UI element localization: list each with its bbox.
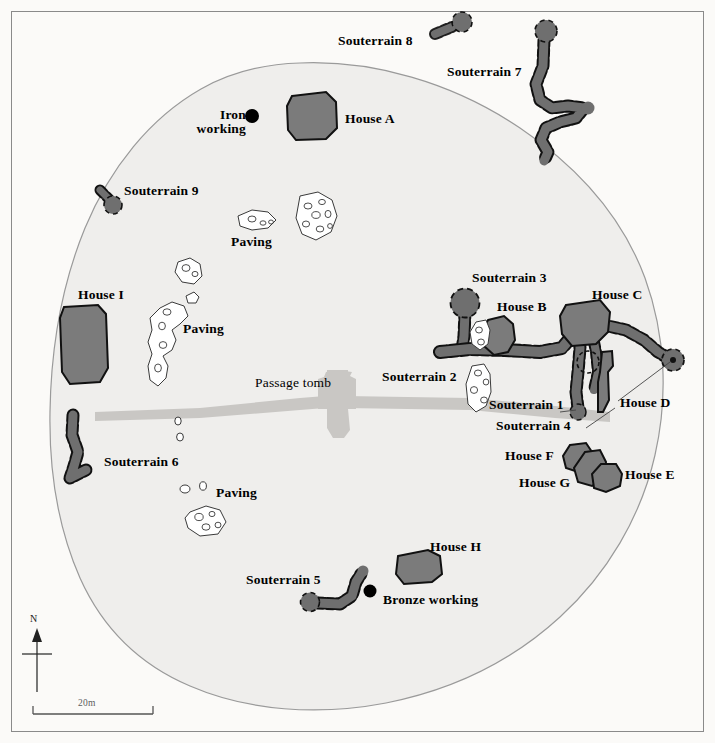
souterrain-8-feature [435,12,472,34]
label-house-i: House I [78,288,124,302]
north-arrow [22,628,52,692]
house-h-shape [396,550,442,584]
label-scale-bar: 20m [78,698,96,708]
label-iron-working: Iron working [192,108,246,137]
label-house-c: House C [592,288,643,302]
label-paving-bottom: Paving [216,486,257,500]
site-plan-figure: Souterrain 8 Souterrain 7 Iron working H… [0,0,715,743]
label-paving-middle: Paving [183,322,224,336]
label-passage-tomb: Passage tomb [255,376,331,390]
label-house-a: House A [345,112,395,126]
label-souterrain-5: Souterrain 5 [246,573,321,587]
label-souterrain-6: Souterrain 6 [104,455,179,469]
label-souterrain-3: Souterrain 3 [472,271,547,285]
label-souterrain-4: Souterrain 4 [496,419,571,433]
label-house-e: House E [625,468,675,482]
label-bronze-working: Bronze working [383,593,478,607]
label-souterrain-2: Souterrain 2 [382,370,457,384]
label-souterrain-7: Souterrain 7 [447,65,522,79]
label-north: N [30,614,37,625]
label-souterrain-9: Souterrain 9 [124,184,199,198]
label-paving-top: Paving [231,235,272,249]
house-e-shape [592,464,622,492]
souterrain-7-feature [535,20,595,161]
label-house-h: House H [430,540,481,554]
label-souterrain-1: Souterrain 1 [489,398,564,412]
house-i-shape [60,305,108,384]
label-house-f: House F [505,449,554,463]
iron-working-marker [245,109,259,123]
bronze-working-marker [364,585,377,598]
label-house-d: House D [620,396,671,410]
label-house-b: House B [497,300,547,314]
label-house-g: House G [519,476,570,490]
house-a-shape [287,92,337,140]
label-souterrain-8: Souterrain 8 [338,34,413,48]
